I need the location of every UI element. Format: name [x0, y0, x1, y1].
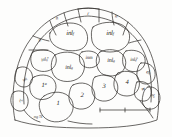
plate-label-inl-g-sup-right: inlgp	[130, 57, 137, 62]
plate-label-superscript: a	[45, 81, 47, 86]
plate-label-superscript: p	[136, 56, 137, 60]
plate-label-r-top-center: r	[87, 12, 89, 17]
plate-label-subscript: g	[113, 59, 115, 63]
plate-label-inl-g-center: inlg	[65, 65, 72, 71]
carapace-plate-diagram: nrnninlfinlfinlgainlginminlginlgpelfinlf…	[0, 0, 172, 137]
divider-top-left	[64, 13, 68, 26]
plate-label-plate-1: 1	[56, 101, 59, 108]
plate-label-plate-4: 4	[125, 80, 128, 87]
divider-top-left-inner	[50, 21, 56, 35]
plate-label-plate-2: 2	[80, 93, 83, 100]
plate-label-inm-center: inm	[86, 56, 93, 61]
divider-top-right	[123, 22, 128, 35]
plate-label-subscript: f	[113, 31, 114, 36]
r-plate-outline	[78, 8, 99, 9]
plate-label-inl-f-left: inlf	[66, 31, 74, 38]
plate-label-subscript: f	[73, 31, 74, 36]
plate-label-inl-g-right: inlg	[107, 58, 114, 64]
plate-label-subscript: g	[71, 66, 73, 70]
lower-rim-right	[140, 101, 153, 118]
plate-label-plate-3: 3	[102, 84, 105, 91]
plate-label-subscript: f	[26, 78, 28, 81]
divider-top-center-left	[78, 9, 81, 22]
lower-rim-center	[68, 121, 92, 124]
figure-caption: mg 78	[34, 115, 42, 119]
plate-outline-svg	[0, 0, 172, 137]
plate-label-inl-f-right: inlf	[106, 31, 114, 38]
scale-bar-group	[100, 108, 150, 112]
plate-label-plate-1-prime: 1a	[42, 82, 47, 89]
